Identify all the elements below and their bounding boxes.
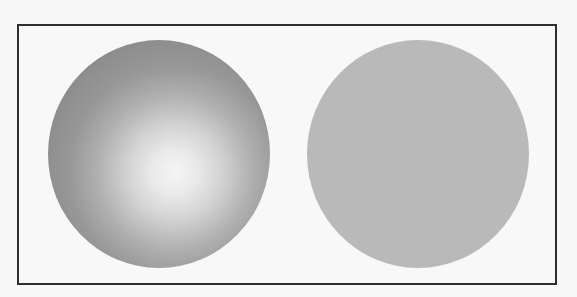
figure-frame: [17, 24, 557, 285]
shaded-sphere: [48, 40, 270, 268]
flat-circle: [307, 40, 529, 268]
